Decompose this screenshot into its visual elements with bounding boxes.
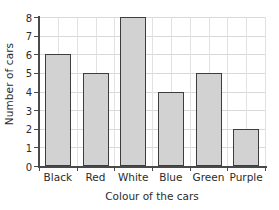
bars-layer	[39, 17, 265, 166]
x-tick-mark	[265, 167, 266, 171]
y-tick-mark	[34, 129, 38, 130]
plot-area	[39, 17, 265, 166]
x-tick-mark	[39, 167, 40, 171]
x-axis-label-green: Green	[193, 171, 225, 183]
bar-green	[196, 73, 222, 166]
bar-white	[120, 17, 146, 166]
y-tick: 3	[34, 110, 38, 111]
y-tick-label: 2	[26, 124, 32, 135]
bar-black	[45, 54, 71, 166]
x-tick-mark	[227, 167, 228, 171]
y-tick-mark	[34, 73, 38, 74]
x-axis-label-white: White	[118, 171, 149, 183]
y-tick-label: 0	[26, 161, 32, 172]
y-tick-mark	[34, 17, 38, 18]
bar-purple	[233, 129, 259, 166]
y-tick-mark	[34, 166, 38, 167]
y-tick-label: 4	[26, 87, 32, 98]
y-tick: 8	[34, 17, 38, 18]
x-tick-mark	[190, 167, 191, 171]
gridline-vertical	[265, 17, 266, 166]
bar-chart: Number of cars 012345678 BlackRedWhiteBl…	[0, 0, 279, 210]
bar-red	[83, 73, 109, 166]
y-axis-title-label: Number of cars	[3, 43, 15, 125]
y-tick-mark	[34, 110, 38, 111]
x-tick-mark	[77, 167, 78, 171]
x-tick-mark	[114, 167, 115, 171]
y-tick: 6	[34, 54, 38, 55]
x-axis-label-blue: Blue	[159, 171, 182, 183]
y-tick-mark	[34, 36, 38, 37]
y-tick-label: 6	[26, 49, 32, 60]
x-axis-label-purple: Purple	[230, 171, 263, 183]
y-tick: 7	[34, 36, 38, 37]
y-tick-label: 7	[26, 31, 32, 42]
x-tick-mark	[152, 167, 153, 171]
y-tick: 2	[34, 129, 38, 130]
y-tick-label: 8	[26, 12, 32, 23]
y-axis-title: Number of cars	[0, 0, 18, 168]
x-axis-label-black: Black	[44, 171, 72, 183]
y-tick-label: 5	[26, 68, 32, 79]
y-axis-line	[38, 16, 40, 167]
y-tick-mark	[34, 92, 38, 93]
y-tick: 4	[34, 92, 38, 93]
y-tick: 5	[34, 73, 38, 74]
x-axis-title: Colour of the cars	[39, 190, 265, 202]
y-tick: 0	[34, 166, 38, 167]
y-tick-label: 1	[26, 142, 32, 153]
x-axis-label-red: Red	[86, 171, 106, 183]
y-tick: 1	[34, 147, 38, 148]
y-tick-label: 3	[26, 105, 32, 116]
y-tick-mark	[34, 147, 38, 148]
y-tick-mark	[34, 54, 38, 55]
bar-blue	[158, 92, 184, 167]
